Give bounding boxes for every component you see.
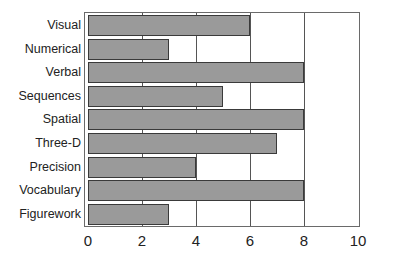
- x-tick-label: 0: [84, 232, 92, 249]
- bar-vocabulary: [88, 180, 304, 201]
- category-label: Precision: [30, 160, 81, 174]
- bar-figurework: [88, 204, 169, 225]
- bar-three-d: [88, 133, 277, 154]
- category-label: Numerical: [25, 42, 81, 56]
- bar-sequences: [88, 86, 223, 107]
- bar-spatial: [88, 109, 304, 130]
- x-tick-label: 4: [192, 232, 200, 249]
- category-label: Three-D: [35, 136, 81, 150]
- x-tick-label: 10: [350, 232, 367, 249]
- x-tick-label: 2: [138, 232, 146, 249]
- x-tick-label: 8: [300, 232, 308, 249]
- bar-precision: [88, 157, 196, 178]
- category-label: Sequences: [18, 89, 81, 103]
- bar-verbal: [88, 62, 304, 83]
- category-label: Spatial: [43, 112, 81, 126]
- category-label: Visual: [47, 18, 81, 32]
- category-label: Verbal: [46, 65, 81, 79]
- bar-numerical: [88, 39, 169, 60]
- x-tick-label: 6: [246, 232, 254, 249]
- bar-chart: VisualNumericalVerbalSequencesSpatialThr…: [0, 0, 394, 263]
- plot-area: [84, 12, 360, 227]
- category-label: Vocabulary: [19, 183, 81, 197]
- category-label: Figurework: [19, 207, 81, 221]
- bar-visual: [88, 15, 250, 36]
